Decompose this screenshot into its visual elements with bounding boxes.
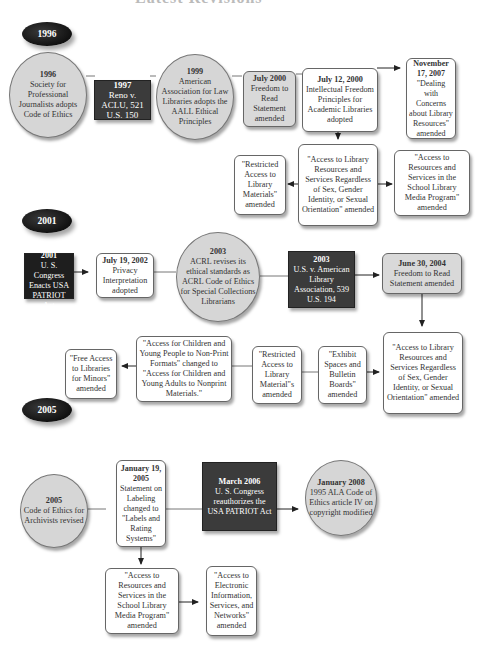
event-nov-2007-concerns: November 17, 2007 "Dealing with Concerns… (406, 58, 456, 139)
event-date: July 2000 (253, 74, 286, 84)
event-date: July 19, 2002 (102, 256, 148, 266)
event-text: Freedom to Read Statement amended (385, 269, 459, 289)
event-school-library-2: "Access to Resources and Services in the… (105, 568, 179, 634)
event-text: U.S. v. American Library Association, 53… (291, 265, 352, 305)
event-date: 2003 (313, 255, 329, 265)
event-electronic-info: "Access to Electronic Information, Servi… (206, 566, 257, 636)
event-date: January 19, 2005 (119, 464, 163, 484)
event-2003-acrl: 2003 ACRL revises its ethical standards … (176, 232, 260, 322)
event-text: Code of Ethics for Archivists revised (23, 506, 85, 526)
event-date: March 2006 (219, 477, 261, 487)
event-text: "Access to Library Resources and Service… (301, 155, 375, 215)
event-school-library-1: "Access to Resources and Services in the… (394, 150, 470, 216)
year-badge-2005: 2005 (22, 398, 72, 422)
event-date: October 2001 (27, 241, 71, 261)
event-mar-2006-patriot: March 2006 U. S. Congress reauthorizes t… (202, 462, 277, 531)
event-text: "Access to Resources and Services in the… (108, 571, 176, 631)
event-date: 2003 (210, 247, 226, 257)
year-badge-1996: 1996 (22, 22, 72, 46)
event-date: 1996 (40, 70, 56, 80)
event-text: "Restricted Access to Library Material"s… (255, 350, 299, 400)
event-restricted-access-1: "Restricted Access to Library Materials"… (234, 155, 286, 215)
event-text: U. S. Congress Enacts USA PATRIOT Act (27, 261, 71, 311)
event-text: Statement on Labeling changed to "Labels… (119, 484, 163, 544)
event-date: 2005 (46, 496, 62, 506)
event-text: "Access to Resources and Services in the… (397, 153, 467, 213)
event-text: Privacy Interpretation adopted (99, 266, 151, 296)
event-text: ACRL revises its ethical standards as AC… (179, 257, 257, 307)
event-text: Society for Professional Journalists ado… (12, 80, 84, 120)
event-date: January 2008 (317, 478, 365, 488)
event-date: July 12, 2000 (317, 75, 363, 85)
event-text: "Dealing with Concerns about Library Res… (409, 79, 453, 139)
event-july-2000-freedom-to-read: July 2000 Freedom to Read Statement amen… (243, 71, 296, 127)
event-date: 1997 (114, 80, 132, 90)
event-text: Intellectual Freedom Principles for Acad… (305, 85, 375, 125)
event-free-access-minors: "Free Access to Libraries for Minors" am… (65, 349, 117, 399)
event-text: "Access to Electronic Information, Servi… (209, 571, 254, 631)
event-2005-archivists: 2005 Code of Ethics for Archivists revis… (20, 474, 88, 548)
event-exhibit-spaces: "Exhibit Spaces and Bulletin Boards" ame… (318, 346, 367, 404)
event-text: 1995 ALA Code of Ethics article IV on co… (308, 488, 374, 518)
event-1997-reno: 1997 Reno v. ACLU, 521 U.S. 150 (94, 80, 151, 120)
event-access-regardless-2: "Access to Library Resources and Service… (383, 332, 463, 414)
event-july-2002-privacy: July 19, 2002 Privacy Interpretation ado… (96, 253, 154, 298)
event-1996-spj: 1996 Society for Professional Journalist… (9, 52, 87, 138)
event-date: June 30, 2004 (398, 259, 446, 269)
event-jan-2008-ala-code: January 2008 1995 ALA Code of Ethics art… (305, 460, 377, 536)
event-text: "Restricted Access to Library Materials"… (237, 160, 283, 210)
event-jan-2005-labeling: January 19, 2005 Statement on Labeling c… (116, 460, 166, 547)
event-text: "Exhibit Spaces and Bulletin Boards" ame… (321, 350, 364, 400)
event-text: U. S. Congress reauthorizes the USA PATR… (205, 487, 274, 517)
event-text: Reno v. ACLU, 521 U.S. 150 (97, 90, 148, 120)
event-1999-aall: 1999 American Association for Law Librar… (156, 54, 234, 140)
year-badge-2001: 2001 (22, 209, 72, 233)
event-access-regardless-1: "Access to Library Resources and Service… (298, 144, 378, 226)
event-july-12-2000-principles: July 12, 2000 Intellectual Freedom Princ… (302, 68, 378, 132)
event-access-children: "Access for Children and Young People to… (136, 336, 232, 402)
event-text: "Free Access to Libraries for Minors" am… (68, 354, 114, 394)
event-text: Freedom to Read Statement amended (246, 84, 293, 124)
event-2003-us-v-ala: 2003 U.S. v. American Library Associatio… (288, 251, 355, 308)
event-date: 1999 (187, 67, 203, 77)
event-restricted-access-2: "Restricted Access to Library Material"s… (252, 346, 302, 404)
event-text: "Access to Library Resources and Service… (386, 343, 460, 403)
event-text: American Association for Law Libraries a… (159, 77, 231, 127)
event-date: November 17, 2007 (409, 59, 453, 79)
event-text: "Access for Children and Young People to… (139, 339, 229, 399)
event-june-2004-freedom-to-read: June 30, 2004 Freedom to Read Statement … (382, 253, 462, 294)
event-oct-2001-patriot: October 2001 U. S. Congress Enacts USA P… (24, 253, 74, 299)
